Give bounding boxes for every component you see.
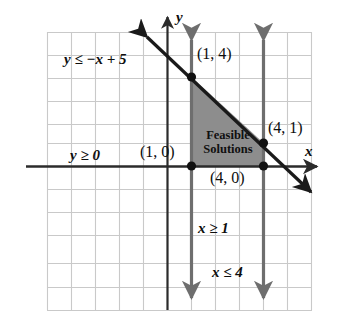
label-y-nonneg-constraint: y ≥ 0: [70, 148, 100, 163]
vertex-point-4-0: [259, 161, 268, 170]
feasible-solutions-line-1: Feasible: [194, 128, 262, 142]
x-axis-label: x: [305, 144, 313, 159]
feasible-region-figure: y ≤ −x + 5 (1, 4) (4, 1) (4, 0) (1, 0) y…: [0, 0, 337, 331]
y-axis-label: y: [176, 10, 183, 25]
vertex-point-1-4: [187, 72, 196, 81]
graph-canvas: [0, 0, 337, 331]
label-diagonal-constraint: y ≤ −x + 5: [64, 52, 127, 67]
label-vertex-1-4: (1, 4): [197, 46, 232, 62]
grid-lines: [47, 32, 312, 311]
label-vertex-4-1: (4, 1): [268, 120, 303, 136]
feasible-solutions-line-2: Solutions: [194, 142, 262, 156]
label-x-max-constraint: x ≤ 4: [212, 265, 243, 280]
label-vertex-4-0: (4, 0): [210, 170, 245, 186]
feasible-solutions-label: Feasible Solutions: [194, 128, 262, 156]
label-x-min-constraint: x ≥ 1: [198, 221, 229, 236]
vertex-point-1-0: [187, 161, 196, 170]
label-vertex-1-0: (1, 0): [140, 144, 175, 160]
